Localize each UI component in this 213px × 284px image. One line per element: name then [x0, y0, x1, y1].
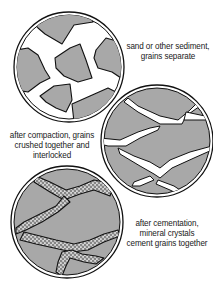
stage-3-cementation-circle — [11, 166, 123, 278]
caption-line: mineral crystals — [123, 228, 211, 238]
stage-1-loose-sediment-circle — [14, 12, 124, 130]
caption-line: after cementation, — [123, 218, 211, 228]
stage-3-caption: after cementation, mineral crystals ceme… — [123, 218, 211, 248]
caption-line: interlocked — [5, 150, 99, 160]
stage-2-compaction-circle — [100, 85, 213, 197]
caption-line: after compaction, grains — [5, 130, 99, 140]
stage-1-caption: sand or other sediment, grains separate — [123, 41, 213, 61]
stage-2-caption: after compaction, grains crushed togethe… — [5, 130, 99, 160]
caption-line: crushed together and — [5, 140, 99, 150]
caption-line: grains separate — [123, 51, 213, 61]
caption-line: cement grains together — [123, 238, 211, 248]
caption-line: sand or other sediment, — [123, 41, 213, 51]
